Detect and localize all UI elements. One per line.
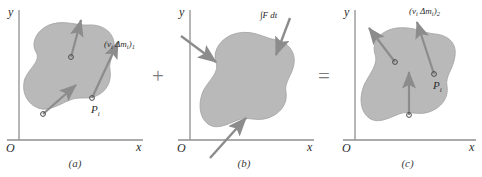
impulse-arrow-b-1	[181, 36, 216, 62]
body-blob-a	[24, 23, 115, 110]
caption-b: (b)	[168, 157, 320, 169]
panel-c-graphic: y x O (vi Δmi)2 Pi	[333, 0, 482, 177]
momentum-label-c: (vi Δmi)2	[409, 6, 441, 17]
panel-a: y x O (vi Δmi)1 Pi (a)	[0, 0, 150, 177]
equals-operator: =	[318, 66, 330, 87]
impulse-momentum-figure: y x O (vi Δmi)1 Pi (a) +	[0, 0, 482, 177]
origin-label-c: O	[342, 141, 351, 155]
origin-label-b: O	[177, 141, 186, 155]
caption-c: (c)	[333, 157, 482, 169]
caption-a: (a)	[0, 157, 150, 169]
x-axis-label-c: x	[468, 140, 475, 154]
panel-c: y x O (vi Δmi)2 Pi (c)	[333, 0, 482, 177]
x-axis-label-b: x	[306, 140, 313, 154]
momentum-label-a: (vi Δmi)1	[104, 39, 135, 50]
y-axis-label-b: y	[178, 5, 185, 19]
origin-label-a: O	[6, 141, 15, 155]
x-axis-label-a: x	[135, 140, 142, 154]
panel-b: y x O ∫F dt (b)	[168, 0, 320, 177]
panel-a-graphic: y x O (vi Δmi)1 Pi	[0, 0, 150, 177]
plus-operator: +	[152, 66, 164, 87]
panel-b-graphic: y x O ∫F dt	[168, 0, 320, 177]
y-axis-label-a: y	[7, 5, 14, 19]
point-label-a: Pi	[90, 103, 100, 118]
y-axis-label-c: y	[343, 5, 350, 19]
impulse-label-b: ∫F dt	[259, 10, 278, 21]
